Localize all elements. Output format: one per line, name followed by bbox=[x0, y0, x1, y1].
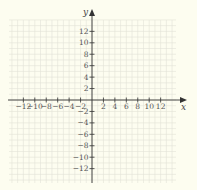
y-tick-label: −10 bbox=[73, 153, 89, 162]
y-tick-label: −6 bbox=[77, 130, 88, 139]
y-tick-label: −12 bbox=[73, 164, 89, 173]
x-tick-label: 6 bbox=[124, 102, 129, 111]
x-tick-label: 2 bbox=[101, 102, 106, 111]
x-axis-label: x bbox=[181, 102, 186, 112]
x-tick-label: 12 bbox=[156, 102, 166, 111]
y-axis-label: y bbox=[82, 7, 89, 17]
y-tick-label: 6 bbox=[84, 61, 89, 70]
x-tick-label: 8 bbox=[135, 102, 140, 111]
y-tick-label: −8 bbox=[77, 141, 88, 150]
x-tick-label: 10 bbox=[144, 102, 154, 111]
y-tick-label: 12 bbox=[79, 27, 89, 36]
x-tick-label: −4 bbox=[64, 102, 75, 111]
coordinate-plane: −12−10−8−6−4−22468101212108642−2−4−6−8−1… bbox=[0, 0, 197, 190]
y-axis-arrow-icon bbox=[89, 9, 95, 16]
y-tick-label: −4 bbox=[77, 118, 88, 127]
x-tick-label: 4 bbox=[112, 102, 117, 111]
x-tick-label: −6 bbox=[52, 102, 63, 111]
x-tick-label: −8 bbox=[41, 102, 52, 111]
y-tick-label: −2 bbox=[77, 107, 88, 116]
y-tick-label: 2 bbox=[84, 84, 89, 93]
y-tick-label: 10 bbox=[79, 38, 89, 47]
y-tick-label: 4 bbox=[84, 73, 89, 82]
y-tick-label: 8 bbox=[84, 50, 89, 59]
